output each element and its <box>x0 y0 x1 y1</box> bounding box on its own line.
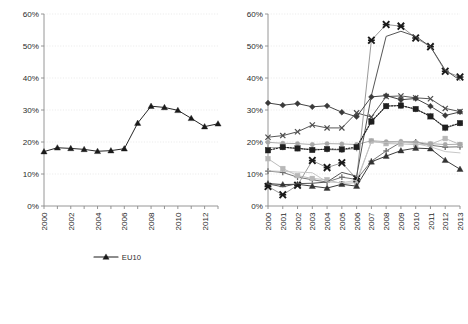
chart-panel-right: 0%10%20%30%40%50%60%20002001200220032004… <box>234 0 468 324</box>
svg-text:2010: 2010 <box>174 212 183 231</box>
svg-text:2000: 2000 <box>264 212 273 231</box>
legend-item-eu10[interactable]: EU10 <box>0 252 234 262</box>
svg-text:2002: 2002 <box>294 212 303 231</box>
svg-text:60%: 60% <box>247 10 263 19</box>
chart-svg-left: 0%10%20%30%40%50%60%20002002200420062008… <box>0 0 234 252</box>
svg-text:40%: 40% <box>247 74 263 83</box>
svg-text:2004: 2004 <box>323 212 332 231</box>
svg-text:2009: 2009 <box>397 212 406 231</box>
svg-text:2008: 2008 <box>147 212 156 231</box>
svg-text:20%: 20% <box>23 138 39 147</box>
svg-text:2004: 2004 <box>94 212 103 231</box>
svg-text:30%: 30% <box>23 106 39 115</box>
svg-text:40%: 40% <box>23 74 39 83</box>
chart-legend-left: EU10 <box>0 252 234 262</box>
svg-text:2001: 2001 <box>279 212 288 231</box>
svg-text:2006: 2006 <box>353 212 362 231</box>
triangle-marker-icon <box>93 252 119 262</box>
svg-text:2012: 2012 <box>441 212 450 231</box>
chart-svg-right: 0%10%20%30%40%50%60%20002001200220032004… <box>234 0 468 252</box>
svg-text:0%: 0% <box>27 202 39 211</box>
figure-root: 0%10%20%30%40%50%60%20002002200420062008… <box>0 0 468 324</box>
legend-label: EU10 <box>122 253 141 262</box>
svg-text:10%: 10% <box>247 170 263 179</box>
svg-text:2013: 2013 <box>456 212 465 231</box>
svg-text:20%: 20% <box>247 138 263 147</box>
svg-text:2003: 2003 <box>308 212 317 231</box>
svg-text:10%: 10% <box>23 170 39 179</box>
svg-text:2010: 2010 <box>412 212 421 231</box>
svg-text:2006: 2006 <box>120 212 129 231</box>
svg-text:30%: 30% <box>247 106 263 115</box>
svg-text:2008: 2008 <box>382 212 391 231</box>
svg-text:0%: 0% <box>251 202 263 211</box>
svg-text:50%: 50% <box>23 42 39 51</box>
svg-text:2011: 2011 <box>427 212 436 230</box>
svg-text:2012: 2012 <box>201 212 210 231</box>
svg-text:60%: 60% <box>23 10 39 19</box>
plot-area-left: 0%10%20%30%40%50%60%20002002200420062008… <box>0 0 234 252</box>
svg-text:50%: 50% <box>247 42 263 51</box>
svg-text:2007: 2007 <box>367 212 376 231</box>
chart-panel-left: 0%10%20%30%40%50%60%20002002200420062008… <box>0 0 234 324</box>
svg-text:2000: 2000 <box>40 212 49 231</box>
svg-text:2005: 2005 <box>338 212 347 231</box>
svg-text:2002: 2002 <box>67 212 76 231</box>
plot-area-right: 0%10%20%30%40%50%60%20002001200220032004… <box>234 0 468 252</box>
